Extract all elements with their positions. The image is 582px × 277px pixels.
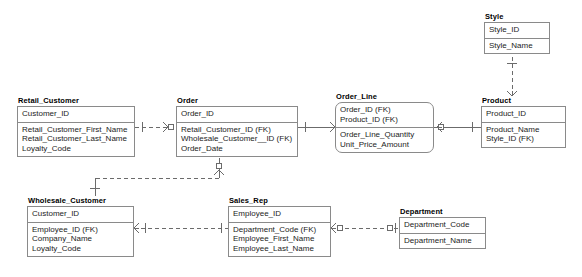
attribute-order-id: Order_ID xyxy=(181,109,293,119)
entity-wholesale-customer-title: Wholesale_Customer xyxy=(27,196,134,205)
entity-retail-customer-title: Retail_Customer xyxy=(17,96,135,105)
attribute-company-name: Company_Name xyxy=(32,234,129,244)
entity-wholesale-customer-box: Customer_ID Employee_ID (FK) Company_Nam… xyxy=(27,206,134,257)
entity-order-box: Order_ID Retail_Customer_ID (FK) Wholesa… xyxy=(176,106,298,157)
attribute-style-name: Style_Name xyxy=(489,41,545,51)
attribute-employee-id: Employee_ID xyxy=(233,209,326,219)
attribute-product-name: Product_Name xyxy=(486,125,561,135)
entity-wholesale-customer-pk-group: Customer_ID xyxy=(28,207,133,223)
entity-order-pk-group: Order_ID xyxy=(177,107,297,123)
er-diagram-canvas: Style Style_ID Style_Name Retail_Custome… xyxy=(0,0,582,277)
entity-sales-rep-attr-group: Department_Code (FK) Employee_First_Name… xyxy=(229,223,330,257)
entity-retail-customer-pk-group: Customer_ID xyxy=(18,107,134,123)
entity-product-title: Product xyxy=(481,96,566,105)
attribute-retail-customer-last-name: Retail_Customer_Last_Name xyxy=(22,134,130,144)
entity-wholesale-customer[interactable]: Wholesale_Customer Customer_ID Employee_… xyxy=(27,196,134,257)
entity-order-line-title: Order_Line xyxy=(335,92,434,101)
attribute-product-id-fk: Product_ID (FK) xyxy=(340,115,429,125)
entity-product-attr-group: Product_Name Style_ID (FK) xyxy=(482,123,565,147)
attribute-department-name: Department_Name xyxy=(404,236,481,246)
relationship-retail-customer-order xyxy=(135,122,176,132)
entity-order-title: Order xyxy=(176,96,298,105)
entity-retail-customer-attr-group: Retail_Customer_First_Name Retail_Custom… xyxy=(18,123,134,157)
relationship-style-product xyxy=(507,57,517,96)
entity-order-line[interactable]: Order_Line Order_ID (FK) Product_ID (FK)… xyxy=(335,92,434,153)
entity-department-title: Department xyxy=(399,207,486,216)
entity-order-line-box: Order_ID (FK) Product_ID (FK) Order_Line… xyxy=(335,102,434,153)
entity-style-box: Style_ID Style_Name xyxy=(484,22,550,54)
attribute-department-code-fk: Department_Code (FK) xyxy=(233,225,326,235)
attribute-loyalty-code: Loyalty_Code xyxy=(22,144,130,154)
relationship-sales-rep-department xyxy=(331,223,399,233)
entity-sales-rep-box: Employee_ID Department_Code (FK) Employe… xyxy=(228,206,331,257)
attribute-product-id: Product_ID xyxy=(486,109,561,119)
relationship-order-line-product xyxy=(434,122,481,132)
entity-wholesale-customer-attr-group: Employee_ID (FK) Company_Name Loyalty_Co… xyxy=(28,223,133,257)
attribute-order-id-fk: Order_ID (FK) xyxy=(340,105,429,115)
relationship-order-order-line xyxy=(298,122,335,132)
attribute-order-line-quantity: Order_Line_Quantity xyxy=(340,130,429,140)
attribute-employee-first-name: Employee_First_Name xyxy=(233,234,326,244)
entity-retail-customer-box: Customer_ID Retail_Customer_First_Name R… xyxy=(17,106,135,157)
entity-order-line-attr-group: Order_Line_Quantity Unit_Price_Amount xyxy=(336,128,433,152)
entity-order[interactable]: Order Order_ID Retail_Customer_ID (FK) W… xyxy=(176,96,298,157)
attribute-retail-customer-id-fk: Retail_Customer_ID (FK) xyxy=(181,125,293,135)
attribute-employee-id-fk: Employee_ID (FK) xyxy=(32,225,129,235)
attribute-style-id-fk: Style_ID (FK) xyxy=(486,134,561,144)
entity-product-box: Product_ID Product_Name Style_ID (FK) xyxy=(481,106,566,148)
attribute-unit-price-amount: Unit_Price_Amount xyxy=(340,140,429,150)
entity-retail-customer[interactable]: Retail_Customer Customer_ID Retail_Custo… xyxy=(17,96,135,157)
entity-style-title: Style xyxy=(484,12,550,21)
attribute-wholesale-customer-id-fk: Wholesale_Customer__ID (FK) xyxy=(181,134,293,144)
entity-style[interactable]: Style Style_ID Style_Name xyxy=(484,12,550,54)
entity-style-pk-group: Style_ID xyxy=(485,23,549,39)
relationship-order-wholesale-customer xyxy=(90,158,224,196)
attribute-department-code: Department_Code xyxy=(404,220,481,230)
attribute-wholesale-customer-id: Customer_ID xyxy=(32,209,129,219)
attribute-retail-customer-first-name: Retail_Customer_First_Name xyxy=(22,125,130,135)
entity-style-attr-group: Style_Name xyxy=(485,39,549,54)
entity-department-box: Department_Code Department_Name xyxy=(399,217,486,249)
attribute-employee-last-name: Employee_Last_Name xyxy=(233,244,326,254)
attribute-order-date: Order_Date xyxy=(181,144,293,154)
entity-sales-rep-title: Sales_Rep xyxy=(228,196,331,205)
entity-product-pk-group: Product_ID xyxy=(482,107,565,123)
attribute-wholesale-loyalty-code: Loyalty_Code xyxy=(32,244,129,254)
attribute-style-id: Style_ID xyxy=(489,25,545,35)
entity-department-attr-group: Department_Name xyxy=(400,234,485,249)
entity-order-attr-group: Retail_Customer_ID (FK) Wholesale_Custom… xyxy=(177,123,297,157)
entity-sales-rep-pk-group: Employee_ID xyxy=(229,207,330,223)
entity-department-pk-group: Department_Code xyxy=(400,218,485,234)
entity-order-line-pk-group: Order_ID (FK) Product_ID (FK) xyxy=(336,103,433,128)
entity-sales-rep[interactable]: Sales_Rep Employee_ID Department_Code (F… xyxy=(228,196,331,257)
entity-product[interactable]: Product Product_ID Product_Name Style_ID… xyxy=(481,96,566,148)
entity-department[interactable]: Department Department_Code Department_Na… xyxy=(399,207,486,249)
attribute-customer-id: Customer_ID xyxy=(22,109,130,119)
relationship-wholesale-customer-sales-rep xyxy=(134,223,228,233)
